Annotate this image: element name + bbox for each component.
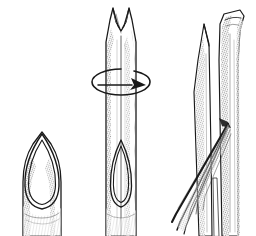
diagram-canvas — [0, 0, 256, 236]
illustration-figure: Three-step line drawing: notching, rotat… — [0, 0, 256, 236]
